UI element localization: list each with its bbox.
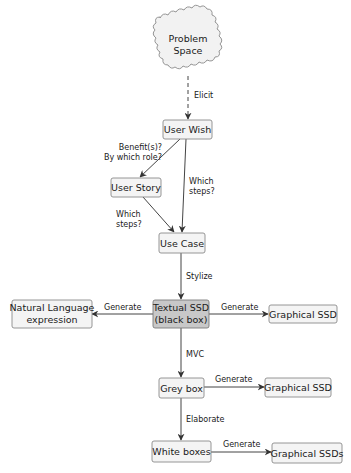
- node-problem-space: Problem Space: [153, 5, 222, 69]
- edge-label-generate-g1: Generate: [221, 303, 258, 312]
- natural-language-line1: Natural Language: [10, 302, 95, 313]
- white-boxes-label: White boxes: [152, 446, 210, 457]
- node-use-case: Use Case: [159, 233, 205, 253]
- node-user-story: User Story: [111, 178, 161, 197]
- problem-space-line2: Space: [174, 45, 203, 56]
- edge-label-stylize: Stylize: [186, 272, 213, 281]
- workflow-diagram: Problem Space Elicit Benefit(s)? By whic…: [0, 0, 351, 473]
- edge-label-which-steps-right-line1: Which: [189, 177, 214, 186]
- node-textual-ssd: Textual SSD (black box): [152, 300, 209, 328]
- node-graphical-ssd-1: Graphical SSD: [269, 305, 337, 323]
- user-wish-label: User Wish: [164, 124, 211, 135]
- edge-label-generate-g3: Generate: [223, 440, 260, 449]
- natural-language-line2: expression: [26, 314, 77, 325]
- node-white-boxes: White boxes: [152, 441, 211, 462]
- textual-ssd-line2: (black box): [155, 314, 208, 325]
- problem-space-line1: Problem: [169, 33, 208, 44]
- edge-which-steps-left: [143, 197, 174, 232]
- use-case-label: Use Case: [160, 238, 204, 249]
- graphical-ssd-1-label: Graphical SSD: [269, 309, 337, 320]
- node-graphical-ssds: Graphical SSDs: [271, 443, 344, 463]
- grey-box-label: Grey box: [160, 383, 203, 394]
- edge-label-elaborate: Elaborate: [186, 415, 224, 424]
- edge-label-generate-nl: Generate: [104, 303, 141, 312]
- edge-label-benefits-line2: By which role?: [104, 153, 162, 162]
- edge-label-which-steps-right-line2: steps?: [189, 187, 215, 196]
- graphical-ssd-2-label: Graphical SSD: [264, 382, 332, 393]
- edge-label-which-steps-left-line2: steps?: [116, 220, 142, 229]
- graphical-ssds-label: Graphical SSDs: [271, 448, 344, 459]
- node-natural-language: Natural Language expression: [10, 300, 95, 328]
- edge-label-elicit: Elicit: [194, 91, 213, 100]
- edge-which-steps-right: [182, 139, 186, 232]
- edge-label-which-steps-left-line1: Which: [116, 210, 141, 219]
- node-graphical-ssd-2: Graphical SSD: [264, 378, 332, 397]
- edge-label-generate-g2: Generate: [215, 375, 252, 384]
- edge-label-benefits-line1: Benefit(s)?: [119, 143, 162, 152]
- user-story-label: User Story: [111, 182, 161, 193]
- node-grey-box: Grey box: [159, 378, 204, 398]
- edge-label-mvc: MVC: [186, 350, 204, 359]
- node-user-wish: User Wish: [163, 120, 212, 139]
- textual-ssd-line1: Textual SSD: [152, 302, 209, 313]
